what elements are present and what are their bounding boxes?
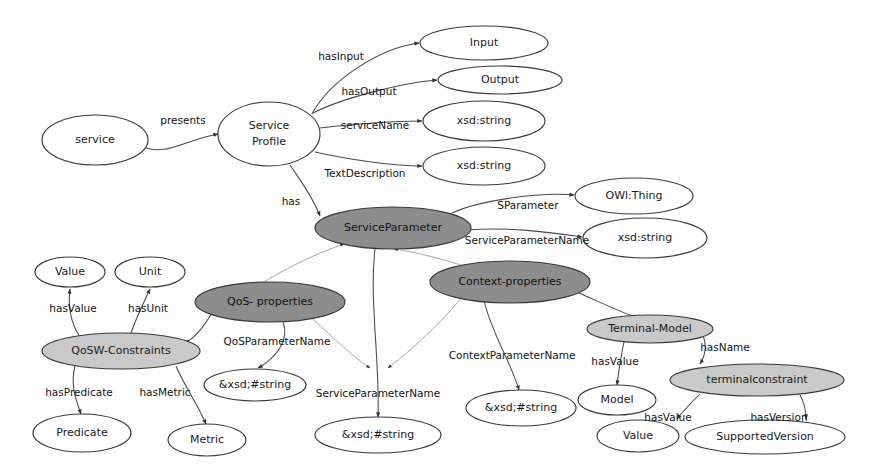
- edge-label-hasValue-terminal: hasValue: [644, 411, 691, 423]
- node-output: Output: [438, 66, 562, 94]
- node-input: Input: [420, 26, 548, 60]
- node-predicate: Predicate: [33, 414, 131, 452]
- node-supported-version: SupportedVersion: [685, 420, 845, 454]
- edge-context-to-serviceparam: [394, 249, 470, 268]
- edge-ContextParameterName: [484, 300, 519, 390]
- node-label-service-parameter: ServiceParameter: [344, 221, 442, 234]
- node-xsd-string-sparam: xsd:string: [583, 218, 707, 258]
- diagram-canvas: serviceServiceProfileInputOutputxsd:stri…: [0, 0, 874, 472]
- edge-label-QoSParameterName: QoSParameterName: [224, 335, 331, 347]
- node-xsd-string-name: xsd:string: [423, 101, 545, 141]
- node-terminal-model: Terminal-Model: [587, 315, 713, 343]
- edge-label-hasUnit: hasUnit: [128, 302, 168, 314]
- node-owl-thing: OWl:Thing: [575, 178, 693, 214]
- node-service-parameter: ServiceParameter: [315, 207, 471, 249]
- edge-label-ServiceParameterName2: ServiceParameterName: [316, 387, 440, 399]
- edge-qos-to-qosw: [185, 311, 213, 343]
- node-label-owl-thing: OWl:Thing: [606, 189, 663, 202]
- node-label-xsd-string-sparam: xsd:string: [618, 231, 673, 244]
- node-label-input: Input: [470, 36, 499, 49]
- node-label-terminalconstraint: terminalconstraint: [706, 373, 808, 386]
- edge-label-hasValue-unit-left: hasValue: [49, 302, 96, 314]
- edge-label-hasName: hasName: [700, 341, 750, 353]
- node-label-supported-version: SupportedVersion: [716, 430, 814, 443]
- edge-label-hasVersion: hasVersion: [750, 411, 807, 423]
- node-label-context-properties: Context-properties: [458, 275, 561, 288]
- edge-presents: [146, 134, 218, 150]
- edge-label-SParameter: SParameter: [497, 199, 559, 211]
- node-service: service: [42, 115, 148, 165]
- node-shape-service-profile: [218, 102, 320, 166]
- edge-label-hasOutput: hasOutput: [341, 85, 396, 97]
- edge-label-presents: presents: [160, 114, 205, 126]
- edge-label-hasPredicate: hasPredicate: [45, 386, 113, 398]
- node-label-xsd-string-svcparam: &xsd;#string: [342, 428, 414, 441]
- node-label-service-profile: Service: [249, 119, 290, 132]
- edge-label-ServiceParameterName: ServiceParameterName: [465, 234, 589, 246]
- edge-label-has: has: [282, 195, 301, 207]
- node-qos-properties: QoS- properties: [195, 282, 345, 322]
- node-label-predicate: Predicate: [56, 426, 108, 439]
- node-label-terminal-model: Terminal-Model: [607, 322, 691, 335]
- edge-label-hasValue-model: hasValue: [591, 355, 638, 367]
- edge-TextDescription: [315, 152, 422, 166]
- node-label-service: service: [75, 133, 115, 146]
- edge-label-serviceName: serviceName: [341, 119, 410, 131]
- node-xsd-string-desc: xsd:string: [423, 147, 545, 185]
- node-label-output: Output: [481, 73, 520, 86]
- edge-qos-to-serviceparam: [262, 244, 344, 283]
- node-value-bottom: Value: [597, 420, 679, 452]
- node-qosw-constraints: QoSW-Constraints: [42, 333, 200, 369]
- node-terminalconstraint: terminalconstraint: [670, 364, 844, 396]
- edge-label-hasMetric: hasMetric: [139, 386, 190, 398]
- node-label-qos-properties: QoS- properties: [227, 295, 313, 308]
- node-label-metric: Metric: [190, 433, 224, 446]
- node-label-xsd-string-context: &xsd;#string: [485, 401, 557, 414]
- edge-label-TextDescription: TextDescription: [323, 167, 405, 179]
- node-value-top: Value: [35, 257, 105, 287]
- node-label-value-top: Value: [55, 265, 85, 278]
- node-label-service-profile-line2: Profile: [252, 135, 286, 148]
- node-label-xsd-string-qos: &xsd;#string: [219, 378, 291, 391]
- node-context-properties: Context-properties: [430, 261, 590, 303]
- node-label-xsd-string-desc: xsd:string: [457, 159, 512, 172]
- node-label-xsd-string-name: xsd:string: [457, 114, 512, 127]
- ontology-graph: serviceServiceProfileInputOutputxsd:stri…: [0, 0, 874, 472]
- node-label-unit: Unit: [139, 265, 162, 278]
- edge-has: [290, 165, 320, 216]
- node-metric: Metric: [168, 424, 246, 456]
- edge-label-ContextParameterName: ContextParameterName: [449, 349, 576, 361]
- node-xsd-string-svcparam: &xsd;#string: [315, 417, 441, 453]
- node-label-qosw-constraints: QoSW-Constraints: [71, 344, 171, 357]
- node-unit: Unit: [115, 257, 185, 287]
- node-xsd-string-context: &xsd;#string: [466, 390, 576, 426]
- edge-context-to-terminal: [572, 290, 638, 318]
- node-service-profile: ServiceProfile: [218, 102, 320, 166]
- node-label-model: Model: [600, 393, 633, 406]
- node-xsd-string-qos: &xsd;#string: [204, 369, 306, 401]
- edge-label-hasInput: hasInput: [318, 50, 364, 62]
- node-label-value-bottom: Value: [623, 429, 653, 442]
